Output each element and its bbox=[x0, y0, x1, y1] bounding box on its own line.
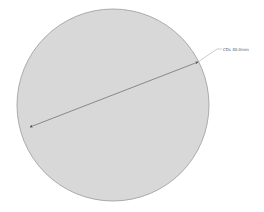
circle-shape[interactable] bbox=[17, 9, 209, 201]
dimension-leader-line bbox=[198, 49, 217, 62]
drawing-canvas: CDs 40.0mm bbox=[0, 0, 264, 212]
diameter-dimension-label[interactable]: CDs 40.0mm bbox=[223, 47, 249, 52]
